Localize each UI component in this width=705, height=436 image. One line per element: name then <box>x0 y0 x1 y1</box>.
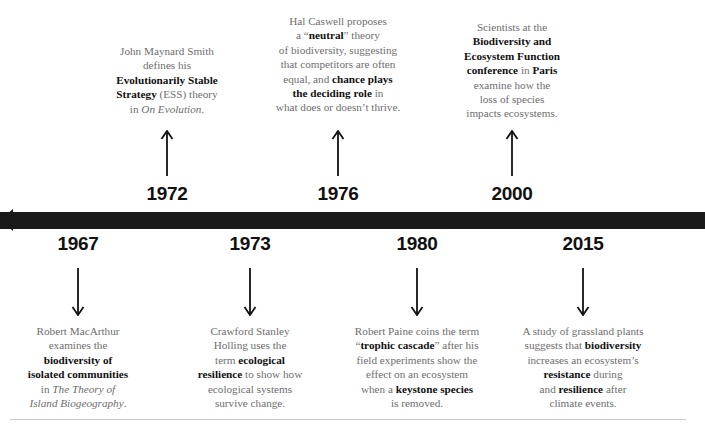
arrow-down-icon <box>576 268 590 316</box>
timeline-axis-bar <box>0 212 705 229</box>
baseline-rule <box>10 419 686 420</box>
event-description: A study of grassland plantssuggests that… <box>494 324 672 410</box>
arrow-down-icon <box>71 268 85 316</box>
year-label: 1980 <box>332 234 502 254</box>
arrow-up-icon <box>160 130 174 176</box>
year-label: 2000 <box>434 184 590 204</box>
event-description: Scientists at theBiodiversity andEcosyst… <box>434 20 590 121</box>
year-label: 1972 <box>87 184 247 204</box>
arrow-up-icon <box>331 130 345 176</box>
year-label: 2015 <box>494 234 672 254</box>
year-label: 1973 <box>170 234 330 254</box>
arrow-down-icon <box>243 268 257 316</box>
event-description: Robert Paine coins the term“trophic casc… <box>332 324 502 410</box>
event-description: John Maynard Smithdefines hisEvolutionar… <box>87 44 247 116</box>
year-label: 1976 <box>255 184 421 204</box>
event-description: Hal Caswell proposesa “neutral” theoryof… <box>255 14 421 115</box>
arrow-up-icon <box>505 130 519 176</box>
arrow-down-icon <box>410 268 424 316</box>
timeline-infographic: John Maynard Smithdefines hisEvolutionar… <box>0 0 705 436</box>
event-description: Robert MacArthurexamines thebiodiversity… <box>0 324 158 410</box>
event-description: Crawford StanleyHolling uses theterm eco… <box>170 324 330 410</box>
timeline-left-arrow-icon <box>0 209 13 231</box>
year-label: 1967 <box>0 234 158 254</box>
